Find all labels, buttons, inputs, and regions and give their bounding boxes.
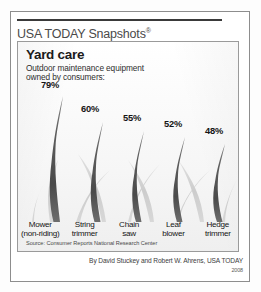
value-label-leaf-blower: 52% — [164, 119, 182, 129]
category-label-leaf-blower: Leaf blower — [151, 220, 195, 242]
chart-plot-area: 79% 60% 55% 52% 48% — [18, 86, 239, 222]
category-string-trimmer-line-1: String — [75, 220, 95, 229]
value-label-hedge-trimmer: 48% — [205, 126, 223, 136]
panel-header: Yard care Outdoor maintenance equipment … — [26, 47, 232, 83]
category-leaf-blower-line-2: blower — [151, 229, 195, 238]
value-label-chain-saw: 55% — [123, 113, 141, 123]
byline-authors: By David Stuckey and Robert W. Ahrens, U… — [89, 257, 243, 264]
category-mower-line-2: (non-riding) — [18, 229, 62, 238]
blade-mower — [50, 96, 63, 222]
byline: By David Stuckey and Robert W. Ahrens, U… — [33, 257, 243, 274]
registered-mark-icon: ® — [146, 27, 151, 34]
source-note: Source: Consumer Reports National Resear… — [26, 240, 157, 246]
category-string-trimmer-line-2: trimmer — [62, 229, 106, 238]
byline-year: 2008 — [33, 266, 243, 274]
grass-blades-svg — [18, 86, 239, 222]
chart-subtitle-line-2: owned by consumers: — [26, 72, 105, 82]
category-hedge-trimmer-line-1: Hedge — [207, 220, 230, 229]
category-mower-line-1: Mower — [29, 220, 52, 229]
category-label-chain-saw: Chain saw — [107, 220, 151, 242]
masthead: USA TODAY Snapshots® — [17, 19, 243, 41]
category-label-string-trimmer: String trimmer — [62, 220, 106, 242]
masthead-brand: USA TODAY Snapshots — [17, 27, 146, 41]
chart-panel: Yard care Outdoor maintenance equipment … — [17, 41, 239, 252]
category-labels: Mower (non-riding) String trimmer Chain … — [18, 220, 239, 242]
chart-title: Yard care — [26, 47, 232, 62]
value-label-mower: 79% — [41, 80, 59, 90]
category-label-hedge-trimmer: Hedge trimmer — [196, 220, 239, 242]
category-chain-saw-line-1: Chain — [119, 220, 139, 229]
value-label-string-trimmer: 60% — [81, 104, 99, 114]
blade-leaf-blower — [173, 137, 185, 222]
category-leaf-blower-line-1: Leaf — [166, 220, 181, 229]
blade-hedge-trimmer — [213, 144, 225, 222]
masthead-title: USA TODAY Snapshots® — [17, 24, 243, 41]
snapshot-infographic: USA TODAY Snapshots® Yard care Outdoor m… — [0, 0, 261, 292]
category-label-mower: Mower (non-riding) — [18, 220, 62, 242]
category-chain-saw-line-2: saw — [107, 229, 151, 238]
masthead-rule — [17, 19, 222, 21]
category-hedge-trimmer-line-2: trimmer — [196, 229, 239, 238]
